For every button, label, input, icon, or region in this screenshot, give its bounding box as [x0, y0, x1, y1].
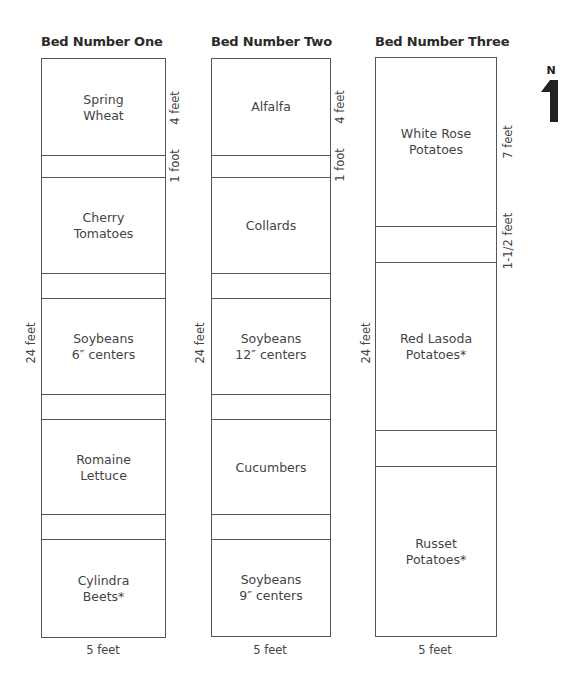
- bed-three-right-label-plot: 7 feet: [501, 125, 515, 159]
- bed-one: Spring Wheat Cherry Tomatoes Soybeans 6″…: [41, 58, 166, 638]
- bed-one-plot-4: Romaine Lettuce: [42, 420, 165, 515]
- bed-three: White Rose Potatoes Red Lasoda Potatoes*…: [375, 57, 497, 637]
- bed-one-plot-2: Cherry Tomatoes: [42, 178, 165, 274]
- bed-one-length-label: 24 feet: [24, 323, 38, 364]
- crop-name-line2: 12″ centers: [235, 347, 306, 363]
- bed-one-width-label: 5 feet: [86, 643, 120, 657]
- crop-name-line2: Wheat: [83, 108, 124, 124]
- divider: [42, 514, 165, 515]
- divider: [212, 394, 330, 395]
- crop-name-line2: 6″ centers: [72, 347, 135, 363]
- divider: [376, 430, 496, 431]
- bed-one-right-label-path: 1 foot: [168, 149, 182, 183]
- bed-two-right-label-path: 1 foot: [333, 148, 347, 182]
- bed-two-right-label-plot: 4 feet: [333, 90, 347, 124]
- crop-name: Alfalfa: [251, 99, 291, 115]
- crop-name: Cylindra: [78, 573, 130, 589]
- bed-two-length-label: 24 feet: [193, 323, 207, 364]
- bed-two-width-label: 5 feet: [253, 643, 287, 657]
- bed-two-plot-5: Soybeans 9″ centers: [212, 540, 330, 636]
- bed-three-plot-1: White Rose Potatoes: [376, 58, 496, 226]
- bed-one-right-label-plot: 4 feet: [168, 91, 182, 125]
- bed-two: Alfalfa Collards Soybeans 12″ centers Cu…: [211, 58, 331, 637]
- north-arrow-icon: [538, 78, 564, 124]
- crop-name: Soybeans: [241, 572, 302, 588]
- divider: [42, 155, 165, 156]
- bed-three-plot-3: Russet Potatoes*: [376, 467, 496, 636]
- divider: [212, 273, 330, 274]
- crop-name: Spring: [83, 92, 123, 108]
- crop-name-line2: 9″ centers: [239, 588, 302, 604]
- crop-name: Collards: [246, 218, 296, 234]
- bed-three-title: Bed Number Three: [375, 34, 509, 49]
- divider: [42, 273, 165, 274]
- north-indicator: N: [538, 64, 564, 124]
- divider: [42, 394, 165, 395]
- north-label: N: [538, 64, 564, 77]
- bed-one-plot-5: Cylindra Beets*: [42, 540, 165, 637]
- crop-name-line2: Potatoes: [409, 142, 463, 158]
- bed-two-plot-4: Cucumbers: [212, 420, 330, 515]
- crop-name: Soybeans: [73, 331, 134, 347]
- bed-two-title: Bed Number Two: [211, 34, 332, 49]
- bed-one-plot-1: Spring Wheat: [42, 59, 165, 156]
- bed-one-plot-3: Soybeans 6″ centers: [42, 299, 165, 395]
- divider: [212, 155, 330, 156]
- bed-two-plot-3: Soybeans 12″ centers: [212, 299, 330, 395]
- bed-three-right-label-path: 1-1/2 feet: [501, 213, 515, 269]
- crop-name-line2: Potatoes*: [406, 552, 466, 568]
- divider: [212, 514, 330, 515]
- crop-name: Romaine: [76, 452, 131, 468]
- crop-name: Cucumbers: [236, 460, 307, 476]
- bed-two-plot-1: Alfalfa: [212, 59, 330, 155]
- bed-two-plot-2: Collards: [212, 178, 330, 274]
- bed-one-title: Bed Number One: [41, 34, 163, 49]
- bed-three-length-label: 24 feet: [359, 323, 373, 364]
- crop-name: Russet: [415, 536, 457, 552]
- crop-name-line2: Beets*: [83, 589, 125, 605]
- bed-three-plot-2: Red Lasoda Potatoes*: [376, 263, 496, 431]
- crop-name: White Rose: [401, 126, 471, 142]
- crop-name: Cherry: [83, 210, 125, 226]
- divider: [376, 226, 496, 227]
- crop-name-line2: Lettuce: [80, 468, 127, 484]
- crop-name-line2: Potatoes*: [406, 347, 466, 363]
- crop-name: Soybeans: [241, 331, 302, 347]
- bed-three-width-label: 5 feet: [418, 643, 452, 657]
- crop-name-line2: Tomatoes: [74, 226, 134, 242]
- crop-name: Red Lasoda: [400, 331, 472, 347]
